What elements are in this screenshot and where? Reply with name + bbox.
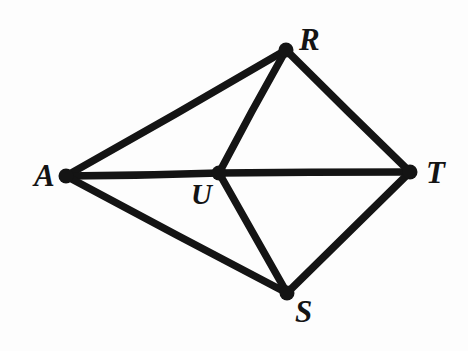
edge-S-T [287, 172, 410, 293]
vertex-label-t: T [426, 157, 445, 188]
graph-svg [0, 0, 468, 351]
edge-A-U [66, 173, 219, 176]
edge-R-T [286, 50, 410, 172]
vertex-label-s: S [295, 296, 312, 327]
vertex-dot-r[interactable] [279, 43, 294, 58]
edges-group [66, 50, 410, 293]
vertex-dot-s[interactable] [280, 286, 295, 301]
vertex-label-a: A [34, 160, 55, 191]
vertex-dot-t[interactable] [403, 165, 418, 180]
diagram-canvas: ARTSU [0, 0, 468, 351]
vertex-label-r: R [299, 24, 320, 55]
vertex-dot-u[interactable] [212, 166, 227, 181]
edge-U-T [219, 172, 410, 173]
vertex-label-u: U [191, 180, 212, 209]
vertex-dot-a[interactable] [59, 169, 74, 184]
